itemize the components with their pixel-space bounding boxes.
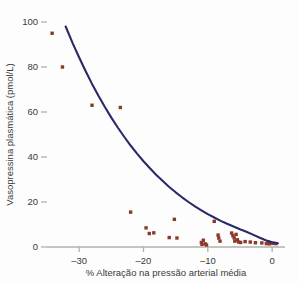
- x-tick-label: –20: [136, 255, 152, 266]
- x-tick-label: –30: [71, 255, 87, 266]
- data-point: [168, 236, 171, 239]
- data-point: [90, 104, 93, 107]
- y-tick-label: 100: [22, 16, 38, 27]
- data-point: [218, 239, 221, 242]
- y-tick-label: 80: [27, 61, 38, 72]
- data-point: [152, 231, 155, 234]
- x-axis-label: % Alteração na pressão arterial média: [86, 267, 247, 278]
- data-point: [144, 226, 147, 229]
- data-point: [148, 232, 151, 235]
- data-point: [61, 65, 64, 68]
- y-axis-label: Vasopressina plasmática (pmol/L): [4, 63, 15, 205]
- data-point: [175, 236, 178, 239]
- chart-figure: –30–20–100020406080100% Alteração na pre…: [0, 0, 298, 284]
- data-point: [173, 218, 176, 221]
- y-tick-label: 40: [27, 151, 38, 162]
- data-point: [217, 236, 220, 239]
- y-tick-label: 60: [27, 106, 38, 117]
- data-point: [213, 220, 216, 223]
- data-point: [129, 210, 132, 213]
- data-point: [200, 243, 203, 246]
- fit-curve: [66, 27, 278, 244]
- data-point: [254, 241, 257, 244]
- scatter-plot: –30–20–100020406080100% Alteração na pre…: [0, 0, 298, 284]
- data-point: [119, 106, 122, 109]
- data-point: [216, 233, 219, 236]
- data-point: [205, 243, 208, 246]
- data-points: [50, 32, 277, 247]
- y-tick-label: 20: [27, 196, 38, 207]
- data-point: [50, 32, 53, 35]
- data-point: [260, 241, 263, 244]
- data-point: [239, 241, 242, 244]
- x-tick-label: –10: [200, 255, 216, 266]
- data-point: [243, 240, 246, 243]
- data-point: [249, 240, 252, 243]
- data-point: [202, 239, 205, 242]
- x-tick-label: 0: [269, 255, 274, 266]
- data-point: [234, 233, 237, 236]
- y-tick-label: 0: [33, 241, 38, 252]
- data-point: [232, 236, 235, 239]
